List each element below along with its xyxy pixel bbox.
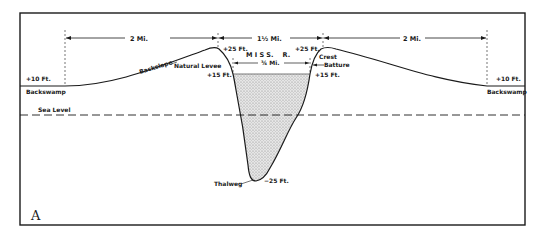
arrowhead-icon — [219, 36, 224, 40]
left-crest-elevation: +25 Ft. — [223, 45, 248, 52]
arrowhead-icon — [66, 36, 71, 40]
backslope-label: Backslope — [138, 58, 173, 76]
arrowhead-icon — [313, 64, 317, 67]
panel-letter: A — [30, 208, 41, 223]
river-name-label: M I S S. R. — [246, 51, 290, 59]
arrowhead-icon — [212, 36, 217, 40]
arrowhead-icon — [324, 36, 329, 40]
dim-right-label: 2 Mi. — [403, 35, 421, 43]
left-backswamp-label: Backswamp — [26, 88, 67, 96]
natural-levee-label: Natural Levee — [174, 62, 221, 69]
arrowhead-icon — [305, 62, 309, 65]
crest-label: Crest — [319, 53, 337, 60]
levee-cross-section-diagram: 2 Mi. 1½ Mi. 2 Mi. ¾ Mi. M I S S. R. +10… — [0, 0, 540, 240]
arrowhead-icon — [317, 36, 322, 40]
left-backswamp-elevation: +10 Ft. — [26, 75, 51, 82]
arrowhead-icon — [481, 36, 486, 40]
right-backswamp-elevation: +10 Ft. — [496, 75, 521, 82]
sea-level-label: Sea Level — [38, 106, 70, 113]
thalweg-pointer — [241, 180, 253, 184]
batture-label: Batture — [324, 61, 350, 68]
dim-river-label: ¾ Mi. — [261, 59, 280, 66]
left-water-elevation: +15 Ft. — [207, 71, 232, 78]
dim-left-label: 2 Mi. — [130, 35, 148, 43]
dim-center-label: 1½ Mi. — [257, 35, 282, 43]
thalweg-label: Thalweg — [214, 180, 242, 188]
right-water-elevation: +15 Ft. — [315, 71, 340, 78]
right-backswamp-label: Backswamp — [487, 88, 528, 96]
arrowhead-icon — [234, 62, 238, 65]
thalweg-elevation: −25 Ft. — [264, 177, 289, 184]
right-crest-elevation: +25 Ft. — [295, 45, 320, 52]
